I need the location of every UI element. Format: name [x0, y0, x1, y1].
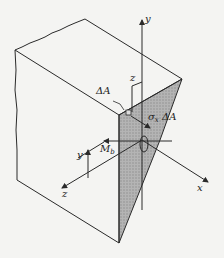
y-offset-label: y	[77, 150, 83, 160]
z-offset-label: z	[130, 73, 135, 83]
stress-label: σx ΔA	[148, 112, 176, 124]
x-axis-label: x	[197, 183, 203, 193]
diagram-canvas: y x z z y ΔA σx ΔA Mb	[0, 0, 224, 258]
dA-label: ΔA	[96, 86, 110, 96]
dA-element	[126, 110, 131, 115]
z-axis-label: z	[62, 189, 67, 199]
moment-label: Mb	[100, 144, 115, 156]
beam-drawing	[0, 0, 224, 258]
y-axis-label: y	[145, 14, 151, 24]
cross-section-face	[119, 79, 182, 243]
